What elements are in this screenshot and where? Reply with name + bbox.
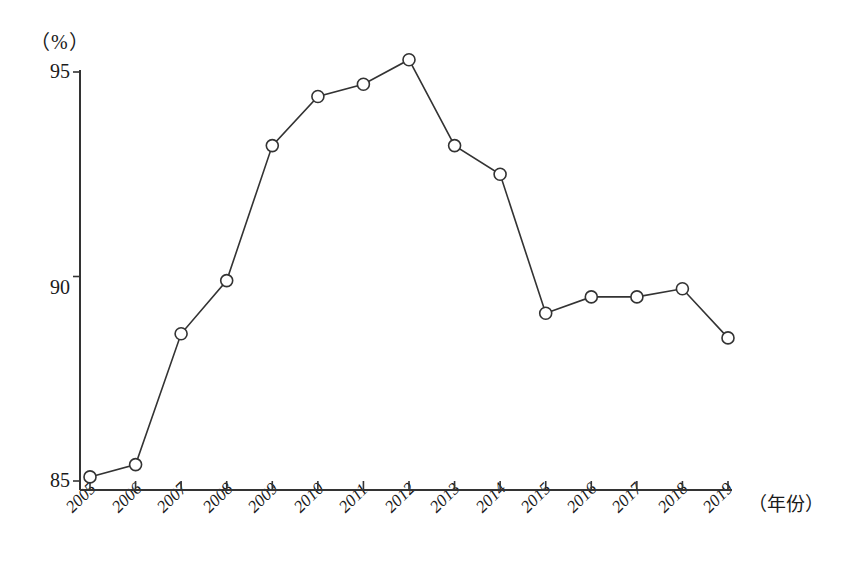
x-tick-marks xyxy=(90,481,728,490)
data-point-2010 xyxy=(312,91,324,103)
data-point-2018 xyxy=(676,283,688,295)
plot-area xyxy=(0,0,850,576)
data-point-2014 xyxy=(494,168,506,180)
data-point-2007 xyxy=(175,328,187,340)
y-tick-marks xyxy=(73,72,80,481)
data-point-2005 xyxy=(84,471,96,483)
axes-lines xyxy=(80,70,732,490)
data-point-2017 xyxy=(631,291,643,303)
line-chart: （%） （年份） 95 90 85 2005 2006 2007 2008 20… xyxy=(0,0,850,576)
data-point-2013 xyxy=(449,140,461,152)
data-point-2008 xyxy=(221,275,233,287)
data-point-2009 xyxy=(266,140,278,152)
data-point-2019 xyxy=(722,332,734,344)
data-point-2016 xyxy=(585,291,597,303)
data-series-line xyxy=(90,60,728,477)
data-point-markers xyxy=(84,54,734,483)
data-point-2015 xyxy=(540,307,552,319)
data-point-2012 xyxy=(403,54,415,66)
data-point-2011 xyxy=(357,78,369,90)
data-point-2006 xyxy=(130,459,142,471)
